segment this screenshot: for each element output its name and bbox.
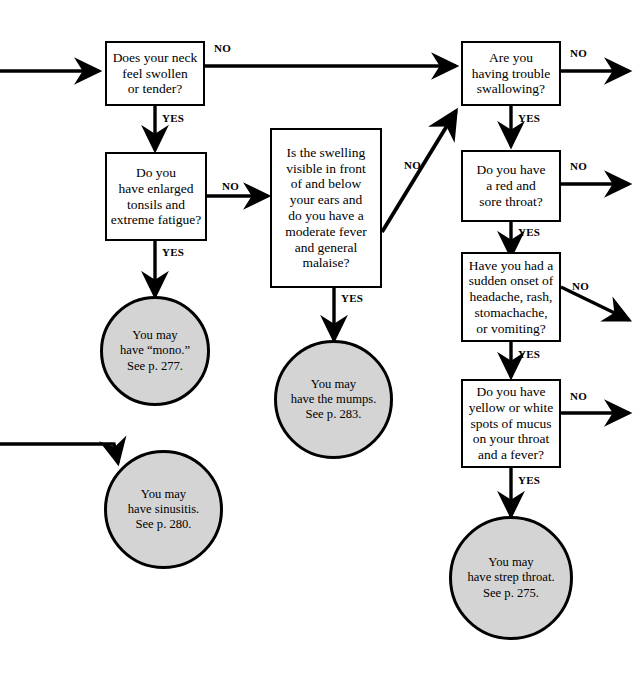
node-swallowing-question[interactable]: Are you having trouble swallowing? [461, 41, 561, 106]
node-sinusitis-result[interactable]: You may have sinusitis. See p. 280. [104, 450, 223, 569]
edge-label-neck-yes: YES [162, 112, 184, 124]
node-sinusitis-result-text: You may have sinusitis. See p. 280. [128, 487, 199, 532]
node-sudden-onset-question-text: Have you had a sudden onset of headache,… [469, 258, 554, 337]
node-neck-question[interactable]: Does your neck feel swollen or tender? [105, 41, 205, 106]
node-tonsils-question[interactable]: Do you have enlarged tonsils and extreme… [105, 152, 207, 241]
node-tonsils-question-text: Do you have enlarged tonsils and extreme… [111, 165, 201, 228]
edge-label-swelling-yes: YES [341, 292, 363, 304]
node-sore-throat-question[interactable]: Do you have a red and sore throat? [461, 150, 561, 222]
edge-label-swelling-no: NO [404, 159, 421, 171]
node-mumps-result-text: You may have the mumps. See p. 283. [291, 377, 377, 422]
node-mucus-question-text: Do you have yellow or white spots of muc… [469, 384, 554, 463]
node-swelling-question-text: Is the swelling visible in front of and … [285, 145, 366, 271]
node-sudden-onset-question[interactable]: Have you had a sudden onset of headache,… [461, 252, 561, 342]
edge-label-tonsils-no: NO [222, 180, 239, 192]
edge-label-sudden-onset-no: NO [572, 280, 589, 292]
node-swallowing-question-text: Are you having trouble swallowing? [472, 50, 550, 97]
edge-label-swallowing-no: NO [570, 47, 587, 59]
edge-entry-sinusitis [0, 444, 118, 463]
node-strep-result-text: You may have strep throat. See p. 275. [467, 555, 554, 600]
node-mumps-result[interactable]: You may have the mumps. See p. 283. [274, 340, 393, 459]
flowchart-canvas: Does your neck feel swollen or tender? D… [0, 0, 641, 674]
node-mono-result[interactable]: You may have “mono.” See p. 277. [100, 296, 210, 406]
edge-label-tonsils-yes: YES [162, 246, 184, 258]
edge-label-sore-throat-no: NO [570, 160, 587, 172]
node-mono-result-text: You may have “mono.” See p. 277. [120, 328, 190, 373]
edge-label-swallowing-yes: YES [518, 112, 540, 124]
edge-swelling-no [382, 111, 456, 232]
node-sore-throat-question-text: Do you have a red and sore throat? [477, 162, 546, 209]
edge-label-neck-no: NO [214, 42, 231, 54]
node-swelling-question[interactable]: Is the swelling visible in front of and … [270, 128, 382, 288]
edge-label-mucus-yes: YES [518, 474, 540, 486]
node-neck-question-text: Does your neck feel swollen or tender? [113, 50, 198, 97]
node-strep-result[interactable]: You may have strep throat. See p. 275. [449, 516, 573, 640]
node-mucus-question[interactable]: Do you have yellow or white spots of muc… [461, 379, 561, 468]
edge-label-sudden-onset-yes: YES [518, 348, 540, 360]
edge-label-sore-throat-yes: YES [518, 226, 540, 238]
edge-label-mucus-no: NO [570, 390, 587, 402]
